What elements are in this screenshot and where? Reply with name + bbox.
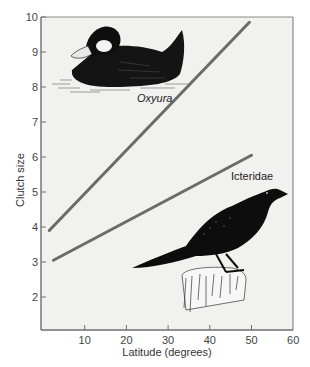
series-label-icteridae: Icteridae [231,170,273,182]
chart: 2345678910 102030405060 [0,0,310,367]
x-tick-label: 20 [120,334,132,346]
x-tick-label: 10 [79,334,91,346]
x-axis-title: Latitude (degrees) [122,346,211,358]
y-tick-label: 6 [32,151,38,163]
x-tick-label: 30 [162,334,174,346]
y-tick-label: 2 [32,291,38,303]
series-label-oxyura: Oxyura [137,92,172,104]
y-tick-label: 9 [32,46,38,58]
x-tick-label: 40 [204,334,216,346]
y-tick-label: 10 [26,11,38,23]
y-tick-label: 3 [32,256,38,268]
y-tick-label: 7 [32,116,38,128]
y-tick-label: 4 [32,221,38,233]
x-tick-label: 50 [245,334,257,346]
y-axis-title: Clutch size [14,153,26,207]
x-tick-label: 60 [287,334,299,346]
y-tick-label: 8 [32,81,38,93]
y-tick-label: 5 [32,186,38,198]
